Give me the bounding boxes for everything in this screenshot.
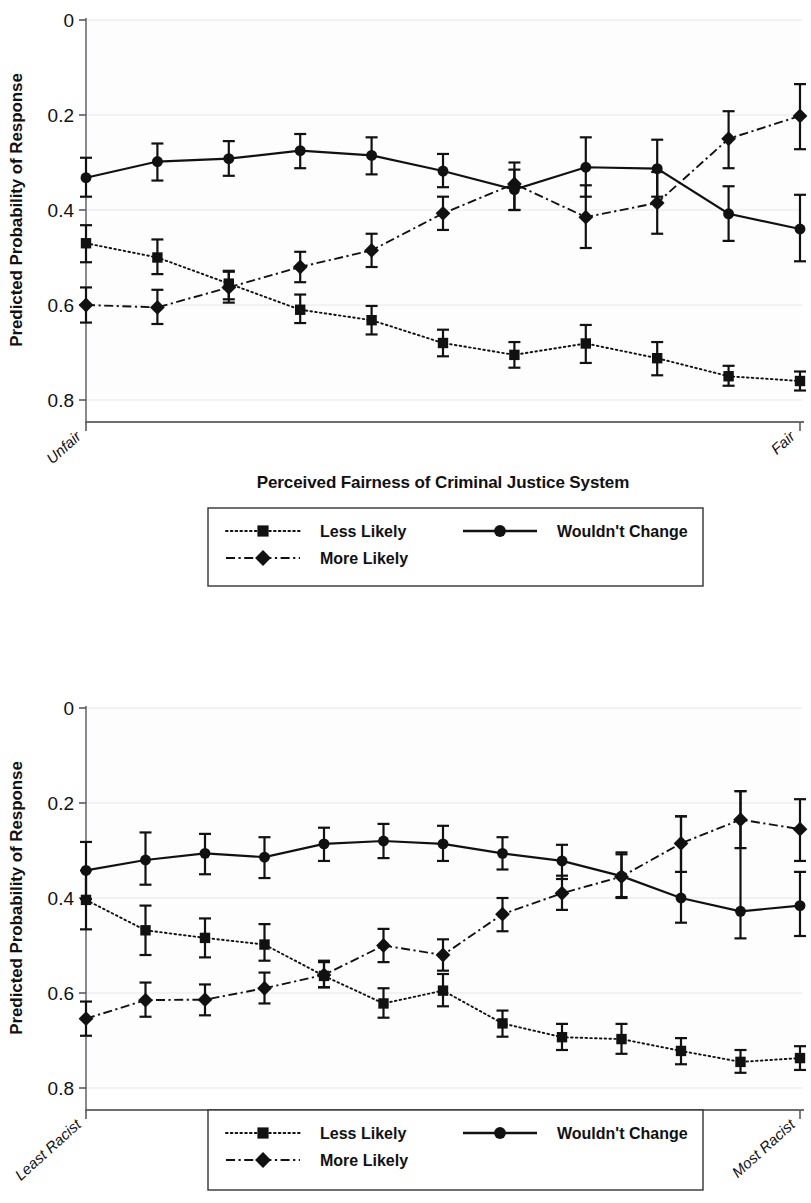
legend-label: Wouldn't Change bbox=[557, 523, 688, 540]
x-tick-label-first: Unfair bbox=[43, 427, 85, 467]
data-point-marker bbox=[795, 1053, 805, 1063]
chart-panel-racism: 0.80.60.40.20Least RacistMost RacistPred… bbox=[0, 600, 811, 1203]
data-point-marker bbox=[366, 150, 377, 161]
data-point-marker bbox=[795, 376, 805, 386]
data-point-marker bbox=[676, 1046, 686, 1056]
data-point-marker bbox=[152, 156, 163, 167]
y-tick-label: 0.2 bbox=[48, 105, 74, 126]
legend-box bbox=[208, 1110, 703, 1190]
data-point-marker bbox=[378, 998, 388, 1008]
data-point-marker bbox=[497, 848, 508, 859]
y-tick-label: 0.6 bbox=[48, 983, 74, 1004]
y-tick-label: 0 bbox=[63, 10, 74, 31]
legend-marker-sample bbox=[257, 525, 268, 536]
data-point-marker bbox=[319, 838, 330, 849]
data-point-marker bbox=[795, 900, 806, 911]
data-point-marker bbox=[580, 162, 591, 173]
x-axis-title: Perceived Fairness of Criminal Justice S… bbox=[257, 473, 630, 492]
data-point-marker bbox=[723, 208, 734, 219]
data-point-marker bbox=[223, 153, 234, 164]
data-point-marker bbox=[497, 1018, 507, 1028]
legend-label: More Likely bbox=[320, 550, 408, 567]
x-tick-label-last: Most Racist bbox=[728, 1115, 798, 1181]
data-point-marker bbox=[81, 238, 91, 248]
data-point-marker bbox=[616, 871, 627, 882]
data-point-marker bbox=[81, 172, 92, 183]
data-point-marker bbox=[509, 350, 519, 360]
data-point-marker bbox=[616, 1034, 626, 1044]
data-point-marker bbox=[438, 338, 448, 348]
fairness-chart-svg: 0.80.60.40.20UnfairFairPredicted Probabi… bbox=[0, 0, 811, 600]
racism-chart-svg: 0.80.60.40.20Least RacistMost RacistPred… bbox=[0, 600, 811, 1203]
data-point-marker bbox=[295, 305, 305, 315]
data-point-marker bbox=[259, 939, 269, 949]
data-point-marker bbox=[723, 371, 733, 381]
legend-marker-sample bbox=[257, 1127, 268, 1138]
data-point-marker bbox=[676, 893, 687, 904]
data-point-marker bbox=[259, 852, 270, 863]
data-point-marker bbox=[152, 252, 162, 262]
x-tick-label-first: Least Racist bbox=[11, 1115, 84, 1183]
y-tick-label: 0 bbox=[63, 698, 74, 719]
data-point-marker bbox=[652, 353, 662, 363]
legend-marker-sample bbox=[494, 525, 506, 537]
data-point-marker bbox=[438, 166, 449, 177]
data-point-marker bbox=[652, 163, 663, 174]
legend-marker-sample bbox=[494, 1127, 506, 1139]
legend-label: Less Likely bbox=[320, 523, 406, 540]
legend: Less LikelyWouldn't ChangeMore Likely bbox=[208, 508, 703, 586]
data-point-marker bbox=[366, 315, 376, 325]
y-tick-label: 0.4 bbox=[48, 200, 75, 221]
legend-box bbox=[208, 508, 703, 586]
y-tick-label: 0.6 bbox=[48, 295, 74, 316]
data-point-marker bbox=[735, 1057, 745, 1067]
y-axis-title: Predicted Probability of Response bbox=[7, 73, 26, 346]
data-point-marker bbox=[378, 836, 389, 847]
y-axis-title: Predicted Probability of Response bbox=[7, 761, 26, 1034]
data-point-marker bbox=[509, 184, 520, 195]
chart-panel-fairness: 0.80.60.40.20UnfairFairPredicted Probabi… bbox=[0, 0, 811, 600]
y-tick-label: 0.8 bbox=[48, 1078, 74, 1099]
data-point-marker bbox=[200, 933, 210, 943]
data-point-marker bbox=[200, 848, 211, 859]
legend-label: Wouldn't Change bbox=[557, 1125, 688, 1142]
data-point-marker bbox=[735, 906, 746, 917]
legend-label: Less Likely bbox=[320, 1125, 406, 1142]
data-point-marker bbox=[438, 985, 448, 995]
data-point-marker bbox=[557, 1032, 567, 1042]
y-tick-label: 0.2 bbox=[48, 793, 74, 814]
x-tick-label-last: Fair bbox=[767, 427, 798, 458]
data-point-marker bbox=[581, 338, 591, 348]
legend: Less LikelyWouldn't ChangeMore Likely bbox=[208, 1110, 703, 1190]
legend-label: More Likely bbox=[320, 1152, 408, 1169]
data-point-marker bbox=[295, 145, 306, 156]
y-tick-label: 0.8 bbox=[48, 390, 74, 411]
data-point-marker bbox=[140, 855, 151, 866]
data-point-marker bbox=[438, 838, 449, 849]
data-point-marker bbox=[81, 865, 92, 876]
data-point-marker bbox=[557, 855, 568, 866]
data-point-marker bbox=[140, 925, 150, 935]
data-point-marker bbox=[795, 224, 806, 235]
y-tick-label: 0.4 bbox=[48, 888, 75, 909]
